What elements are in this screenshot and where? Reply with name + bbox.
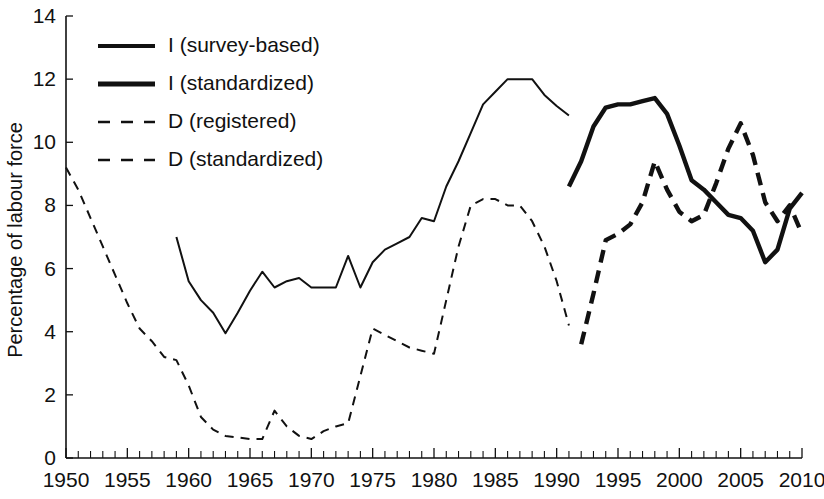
legend-label-3: D (registered)	[168, 109, 296, 132]
x-tick-label: 1965	[227, 468, 274, 491]
y-axis-title: Percentage of labour force	[4, 122, 26, 358]
data-series-group	[66, 79, 802, 439]
x-tick-label: 1985	[472, 468, 519, 491]
x-tick-label: 2000	[656, 468, 703, 491]
x-tick-label: 1995	[595, 468, 642, 491]
y-tick-label: 2	[44, 383, 56, 406]
unemployment-chart-figure: 02468101214 1950195519601965197019751980…	[0, 0, 824, 499]
y-tick-label: 0	[44, 446, 56, 469]
y-tick-label: 14	[33, 4, 57, 27]
legend-label-2: I (standardized)	[168, 71, 314, 94]
x-tick-label: 1990	[533, 468, 580, 491]
y-tick-label: 12	[33, 67, 56, 90]
x-tick-label: 1970	[288, 468, 335, 491]
y-tick-label: 4	[44, 320, 56, 343]
y-tick-label: 8	[44, 193, 56, 216]
chart-canvas: 02468101214 1950195519601965197019751980…	[0, 0, 824, 499]
x-tick-label: 1975	[349, 468, 396, 491]
x-tick-label: 2010	[779, 468, 824, 491]
series-line-2	[569, 98, 802, 262]
legend-label-1: I (survey-based)	[168, 33, 320, 56]
series-line-4	[581, 123, 802, 344]
y-tick-label: 6	[44, 257, 56, 280]
legend-label-4: D (standardized)	[168, 147, 323, 170]
x-tick-label: 1955	[104, 468, 151, 491]
y-tick-label: 10	[33, 130, 56, 153]
x-tick-label: 1950	[43, 468, 90, 491]
y-axis-ticks: 02468101214	[33, 4, 73, 469]
x-tick-label: 1960	[165, 468, 212, 491]
x-tick-label: 1980	[411, 468, 458, 491]
x-axis-ticks: 1950195519601965197019751980198519901995…	[43, 448, 824, 491]
series-line-3	[66, 168, 569, 440]
x-tick-label: 2005	[717, 468, 764, 491]
chart-legend: I (survey-based)I (standardized)D (regis…	[98, 33, 323, 170]
